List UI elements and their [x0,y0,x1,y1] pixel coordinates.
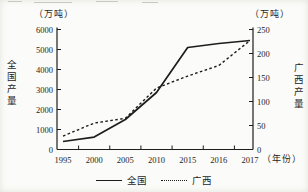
chart-figure: （万吨） （万吨） （年份） 全国产量 广西产量 010002000300040… [0,0,308,192]
chart-legend: 全国 广西 [0,172,308,188]
right-axis-tick-label: 250 [257,25,270,35]
right-axis-tick-label: 0 [257,145,261,155]
legend-item-guangxi: 广西 [161,173,212,187]
x-axis-tick-label: 2015 [179,155,196,165]
left-axis-tick-label: 0 [49,145,53,155]
chart-plot: 0100020003000400050006000050100150200250… [0,0,308,192]
left-axis-tick-label: 3000 [36,85,53,95]
left-axis-tick-label: 6000 [36,25,53,35]
solid-line-icon [96,180,122,181]
right-axis-tick-label: 200 [257,49,270,59]
x-axis-tick-label: 2017 [242,155,259,165]
x-axis-tick-label: 2016 [210,155,227,165]
series-line-guangxi [63,41,250,137]
x-axis-tick-label: 2005 [117,155,134,165]
legend-label: 广西 [192,173,212,187]
right-axis-tick-label: 50 [257,121,266,131]
left-axis-tick-label: 4000 [36,65,53,75]
left-axis-tick-label: 1000 [36,125,53,135]
x-axis-tick-label: 1995 [55,155,72,165]
dashed-line-icon [161,180,187,181]
legend-label: 全国 [127,173,147,187]
x-axis-tick-label: 2000 [86,155,103,165]
series-line-national [63,41,250,142]
right-axis-tick-label: 150 [257,73,270,83]
left-axis-tick-label: 5000 [36,45,53,55]
right-axis-tick-label: 100 [257,97,270,107]
x-axis-tick-label: 2010 [148,155,165,165]
legend-item-national: 全国 [96,173,147,187]
left-axis-tick-label: 2000 [36,105,53,115]
